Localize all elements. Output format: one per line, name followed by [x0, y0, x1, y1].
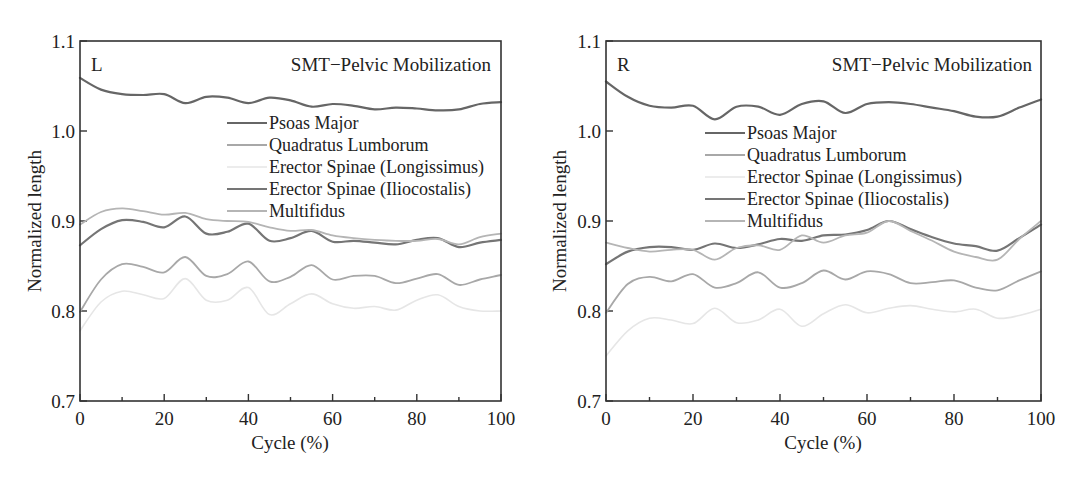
y-tick-label: 0.9 — [577, 211, 601, 232]
panel-label: L — [91, 54, 103, 75]
series-line-erector-spinae-longissimus — [80, 279, 501, 331]
x-tick-label: 60 — [323, 408, 342, 429]
legend-label: Erector Spinae (Longissimus) — [269, 157, 484, 178]
panel-title: SMT−Pelvic Mobilization — [291, 54, 492, 75]
legend-entry: Multifidus — [227, 201, 345, 221]
series-line-erector-spinae-longissimus — [606, 305, 1041, 356]
x-tick-label: 0 — [75, 408, 85, 429]
legend-label: Erector Spinae (Longissimus) — [747, 167, 962, 188]
series-line-erector-spinae-iliocostalis — [80, 216, 501, 247]
y-tick-label: 1.0 — [51, 121, 75, 142]
legend-label: Erector Spinae (Iliocostalis) — [747, 189, 949, 210]
legend: Psoas MajorQuadratus LumborumErector Spi… — [705, 123, 962, 231]
x-tick-label: 100 — [1027, 408, 1056, 429]
panel-title: SMT−Pelvic Mobilization — [832, 54, 1033, 75]
legend-entry: Multifidus — [705, 211, 823, 231]
y-tick-label: 0.7 — [51, 391, 75, 412]
y-tick-label: 1.1 — [51, 31, 75, 52]
legend-entry: Quadratus Lumborum — [705, 145, 906, 165]
series-line-psoas-major — [80, 78, 501, 111]
panel-right: Normalized length Cycle (%) R SMT−Pelvic… — [549, 31, 1055, 454]
x-tick-label: 100 — [487, 408, 516, 429]
series-line-multifidus — [606, 221, 1041, 261]
legend-entry: Psoas Major — [227, 113, 359, 133]
legend-label: Psoas Major — [747, 123, 837, 143]
x-tick-label: 60 — [858, 408, 877, 429]
legend-entry: Erector Spinae (Iliocostalis) — [705, 189, 949, 210]
x-tick-label: 80 — [945, 408, 964, 429]
series-line-psoas-major — [606, 82, 1041, 120]
x-axis-title: Cycle (%) — [251, 432, 329, 454]
legend-entry: Quadratus Lumborum — [227, 135, 428, 155]
y-tick-label: 0.8 — [51, 301, 75, 322]
series-line-quadratus-lumborum — [606, 270, 1041, 312]
legend-entry: Erector Spinae (Longissimus) — [227, 157, 484, 178]
y-axis-title: Normalized length — [549, 150, 570, 292]
y-axis-title: Normalized length — [24, 150, 45, 292]
legend-entry: Erector Spinae (Iliocostalis) — [227, 179, 471, 200]
legend-label: Psoas Major — [269, 113, 359, 133]
plot-frame — [606, 41, 1041, 401]
x-tick-label: 40 — [771, 408, 790, 429]
legend: Psoas MajorQuadratus LumborumErector Spi… — [227, 113, 484, 221]
x-tick-label: 40 — [239, 408, 258, 429]
x-tick-label: 20 — [155, 408, 174, 429]
x-tick-label: 0 — [601, 408, 611, 429]
y-tick-label: 0.9 — [51, 211, 75, 232]
x-tick-label: 20 — [684, 408, 703, 429]
legend-label: Multifidus — [269, 201, 345, 221]
legend-label: Erector Spinae (Iliocostalis) — [269, 179, 471, 200]
y-tick-label: 0.8 — [577, 301, 601, 322]
panel-label: R — [617, 54, 630, 75]
legend-label: Quadratus Lumborum — [747, 145, 906, 165]
y-tick-label: 1.0 — [577, 121, 601, 142]
x-tick-label: 80 — [407, 408, 426, 429]
y-tick-label: 1.1 — [577, 31, 601, 52]
legend-entry: Psoas Major — [705, 123, 837, 143]
panel-left: Normalized length Cycle (%) L SMT−Pelvic… — [24, 31, 515, 454]
legend-entry: Erector Spinae (Longissimus) — [705, 167, 962, 188]
x-axis-title: Cycle (%) — [784, 432, 862, 454]
figure: Normalized length Cycle (%) L SMT−Pelvic… — [0, 0, 1083, 481]
y-tick-label: 0.7 — [577, 391, 601, 412]
legend-label: Multifidus — [747, 211, 823, 231]
legend-label: Quadratus Lumborum — [269, 135, 428, 155]
